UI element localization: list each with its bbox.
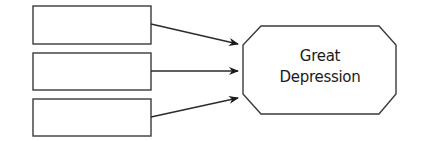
cause-box-2[interactable] — [33, 53, 151, 90]
effect-label-line1: Great — [244, 46, 396, 67]
arrow-3 — [151, 98, 238, 117]
cause-box-3[interactable] — [33, 99, 151, 136]
arrow-1 — [151, 24, 238, 44]
effect-label: Great Depression — [244, 46, 396, 88]
effect-label-line2: Depression — [244, 67, 396, 88]
cause-box-1[interactable] — [33, 6, 151, 44]
